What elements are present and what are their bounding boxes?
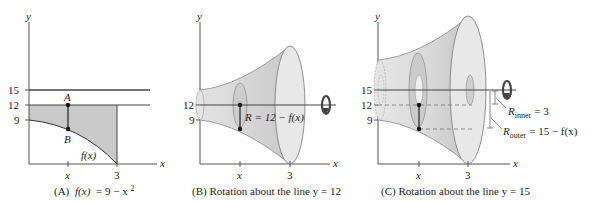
tick-label-9: 9 xyxy=(189,114,195,126)
tick-label-3: 3 xyxy=(465,169,471,181)
shaded-region xyxy=(29,105,117,164)
tick-label-x: x xyxy=(64,169,70,181)
tick-label-9: 9 xyxy=(14,114,20,126)
point-bottom xyxy=(238,127,242,131)
r-outer-bracket xyxy=(487,91,502,129)
radius-label: R = 12 − f(x) xyxy=(244,111,304,124)
tick-label-15: 15 xyxy=(8,84,20,96)
point-bottom xyxy=(417,127,421,131)
y-axis-label: y xyxy=(25,10,31,22)
tick-label-x: x xyxy=(236,169,242,181)
tick-label-12: 12 xyxy=(361,99,372,111)
panel-c: y x 15 12 9 x 3 Rinner= 3 Router= 15 − f… xyxy=(361,10,578,198)
panel-b: y x 12 9 x 3 R = 12 − f(x) (B) Rotation … xyxy=(183,10,341,198)
label-a: A xyxy=(63,91,71,103)
tick-label-3: 3 xyxy=(287,169,293,181)
label-b: B xyxy=(64,133,71,145)
caption-b: (B) Rotation about the line y = 12 xyxy=(192,185,341,198)
point-top xyxy=(417,103,421,107)
tick-label-x: x xyxy=(415,169,421,181)
r-inner-label: Rinner= 3 xyxy=(507,105,549,120)
x-axis-label: x xyxy=(159,157,165,169)
point-b xyxy=(66,127,70,131)
figure-canvas: y x 15 12 9 x 3 A B f(x) (A) f(x) = 9 − … xyxy=(0,0,591,202)
tick-label-12: 12 xyxy=(8,99,19,111)
x-axis-label: x xyxy=(512,157,518,169)
y-axis-label: y xyxy=(374,10,380,22)
curve-label: f(x) xyxy=(81,149,97,162)
point-a xyxy=(66,103,70,107)
tick-label-12: 12 xyxy=(183,99,194,111)
y-axis-label: y xyxy=(196,10,202,22)
x-axis-label: x xyxy=(332,157,338,169)
panel-a: y x 15 12 9 x 3 A B f(x) (A) f(x) = 9 − … xyxy=(8,10,165,198)
tick-label-3: 3 xyxy=(114,169,120,181)
caption-a: (A) f(x) = 9 − x 2 xyxy=(54,184,134,198)
caption-c: (C) Rotation about the line y = 15 xyxy=(381,185,530,198)
tick-label-15: 15 xyxy=(361,84,373,96)
point-top xyxy=(238,103,242,107)
tick-label-9: 9 xyxy=(367,114,373,126)
r-outer-label: Router= 15 − f(x) xyxy=(502,125,578,140)
